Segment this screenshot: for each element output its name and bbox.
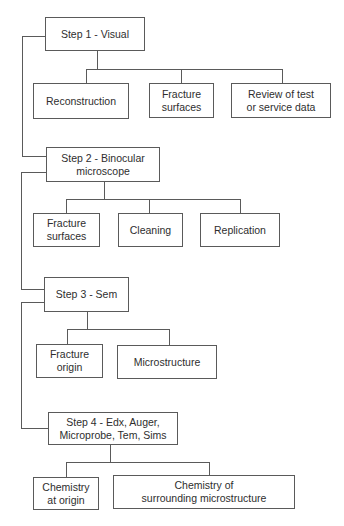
step-3-box: Step 3 - Sem bbox=[44, 277, 129, 312]
connector-line bbox=[22, 156, 46, 157]
chemistry-surrounding-microstructure-box: Chemistry of surrounding microstructure bbox=[113, 475, 295, 509]
connector-line bbox=[110, 445, 111, 462]
failure-analysis-flowchart: Step 1 - Visual Reconstruction Fracture … bbox=[0, 0, 344, 526]
connector-line bbox=[22, 36, 23, 157]
chemistry-at-origin-box: Chemistry at origin bbox=[33, 477, 99, 510]
reconstruction-box: Reconstruction bbox=[33, 83, 129, 119]
connector-line bbox=[240, 199, 241, 213]
connector-line bbox=[87, 312, 88, 329]
connector-line bbox=[209, 462, 210, 475]
connector-line bbox=[66, 462, 210, 463]
connector-line bbox=[21, 289, 44, 290]
connector-line bbox=[66, 199, 67, 213]
connector-line bbox=[22, 36, 46, 37]
connector-line bbox=[21, 302, 22, 428]
fracture-origin-box: Fracture origin bbox=[36, 344, 103, 378]
connector-line bbox=[97, 51, 98, 69]
review-test-service-data-box: Review of test or service data bbox=[231, 83, 331, 118]
fracture-surfaces-box: Fracture surfaces bbox=[149, 83, 214, 118]
step-1-box: Step 1 - Visual bbox=[45, 17, 145, 51]
connector-line bbox=[21, 172, 22, 289]
connector-line bbox=[67, 329, 170, 330]
connector-line bbox=[21, 302, 44, 303]
connector-line bbox=[169, 329, 170, 345]
connector-line bbox=[21, 428, 48, 429]
connector-line bbox=[282, 69, 283, 83]
connector-line bbox=[67, 329, 68, 344]
connector-line bbox=[21, 172, 46, 173]
step-2-box: Step 2 - Binocular microscope bbox=[46, 147, 160, 182]
cleaning-box: Cleaning bbox=[118, 213, 183, 247]
connector-line bbox=[104, 182, 105, 199]
fracture-surfaces-box: Fracture surfaces bbox=[33, 213, 100, 247]
connector-line bbox=[86, 69, 283, 70]
replication-box: Replication bbox=[200, 213, 280, 247]
connector-line bbox=[66, 462, 67, 477]
connector-line bbox=[149, 199, 150, 213]
connector-line bbox=[66, 199, 241, 200]
connector-line bbox=[181, 69, 182, 83]
microstructure-box: Microstructure bbox=[117, 345, 217, 379]
connector-line bbox=[86, 69, 87, 83]
step-4-box: Step 4 - Edx, Auger, Microprobe, Tem, Si… bbox=[48, 412, 178, 445]
